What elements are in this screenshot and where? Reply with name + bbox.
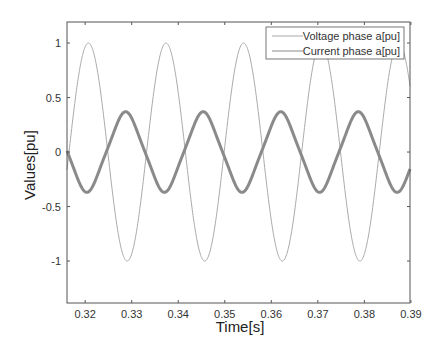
x-axis-ticks: 0.320.330.340.350.360.370.380.39 bbox=[74, 22, 421, 320]
legend: Voltage phase a[pu] Current phase a[pu] bbox=[266, 27, 404, 59]
x-tick-label: 0.38 bbox=[354, 308, 375, 320]
x-tick-label: 0.32 bbox=[74, 308, 95, 320]
y-tick-label: 0 bbox=[55, 146, 61, 158]
y-axis-label: Values[pu] bbox=[21, 130, 38, 200]
y-tick-label: -0.5 bbox=[42, 201, 61, 213]
x-tick-label: 0.39 bbox=[400, 308, 421, 320]
x-tick-label: 0.33 bbox=[121, 308, 142, 320]
y-tick-label: -1 bbox=[51, 255, 61, 267]
legend-label-current: Current phase a[pu] bbox=[303, 45, 400, 57]
y-tick-label: 1 bbox=[55, 37, 61, 49]
legend-label-voltage: Voltage phase a[pu] bbox=[303, 30, 400, 42]
y-tick-label: 0.5 bbox=[46, 92, 61, 104]
x-axis-label: Time[s] bbox=[216, 318, 265, 335]
current-series-line bbox=[67, 112, 410, 193]
series-lines bbox=[67, 43, 410, 261]
chart: 0.320.330.340.350.360.370.380.39 10.50-0… bbox=[0, 0, 438, 353]
voltage-series-line bbox=[67, 43, 410, 261]
x-tick-label: 0.37 bbox=[307, 308, 328, 320]
x-tick-label: 0.34 bbox=[168, 308, 189, 320]
